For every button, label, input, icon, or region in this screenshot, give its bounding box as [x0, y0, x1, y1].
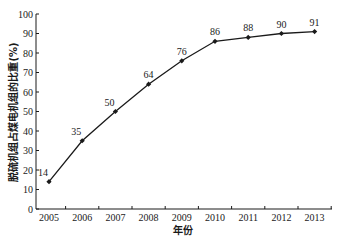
x-tick-label: 2011: [238, 212, 258, 223]
y-axis-title: 脱硫机组占煤电机组的比重(%): [7, 42, 19, 181]
x-tick-label: 2009: [172, 212, 192, 223]
y-tick-label: 60: [23, 87, 33, 98]
data-value-label: 35: [71, 126, 81, 137]
y-tick-label: 30: [23, 145, 33, 156]
data-value-label: 64: [144, 69, 154, 80]
line-chart: 0102030405060708090100 20052006200720082…: [0, 0, 340, 240]
y-tick-label: 50: [23, 106, 33, 117]
data-point-marker: [246, 35, 251, 40]
x-axis-title: 年份: [173, 224, 194, 236]
data-value-label: 88: [243, 22, 253, 33]
x-tick-label: 2005: [39, 212, 59, 223]
y-tick-label: 100: [18, 9, 33, 20]
data-point-marker: [279, 31, 284, 36]
y-tick-label: 0: [28, 204, 33, 215]
x-tick-label: 2012: [271, 212, 291, 223]
data-value-label: 90: [276, 19, 286, 30]
data-series: 143550647686889091: [38, 17, 320, 185]
x-tick-label: 2006: [72, 212, 92, 223]
y-tick-label: 10: [23, 184, 33, 195]
data-value-label: 91: [310, 17, 320, 28]
data-point-marker: [312, 29, 317, 34]
data-value-label: 50: [104, 97, 114, 108]
x-tick-label: 2007: [105, 212, 125, 223]
y-tick-label: 70: [23, 67, 33, 78]
x-tick-label: 2010: [205, 212, 225, 223]
y-tick-label: 80: [23, 48, 33, 59]
data-value-label: 76: [177, 46, 187, 57]
y-tick-label: 90: [23, 28, 33, 39]
axes: [36, 14, 332, 209]
x-tick-label: 2008: [139, 212, 159, 223]
y-tick-label: 20: [23, 165, 33, 176]
data-value-label: 14: [38, 167, 48, 178]
x-tick-label: 2013: [305, 212, 325, 223]
y-tick-label: 40: [23, 126, 33, 137]
data-value-label: 86: [210, 26, 220, 37]
